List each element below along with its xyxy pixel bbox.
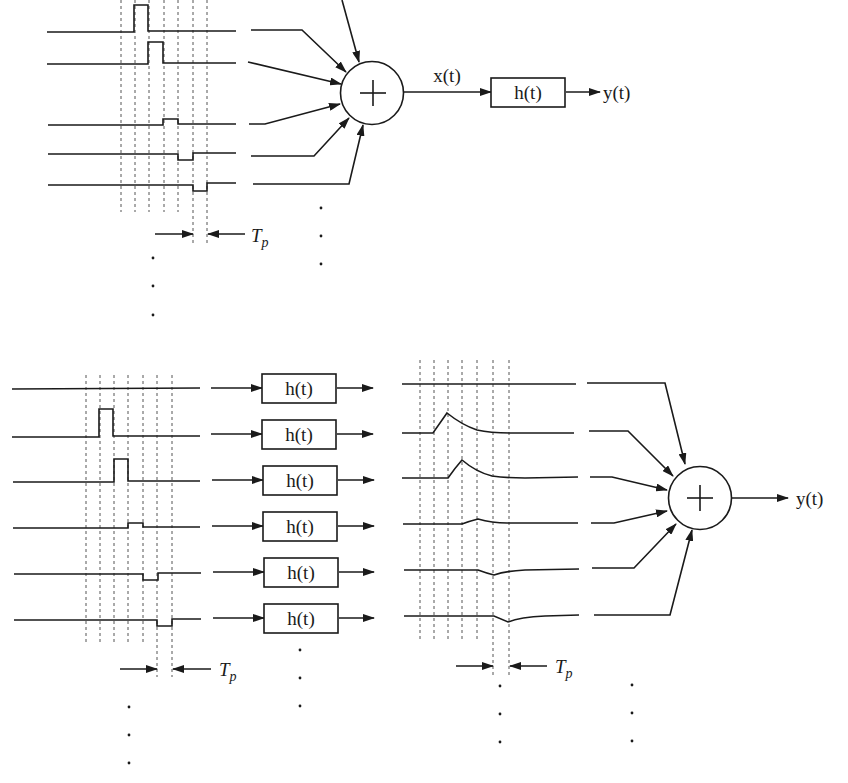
- filter-channel-3: h(t): [212, 466, 374, 495]
- top-filter-label: h(t): [514, 82, 541, 104]
- top-time-grid: [121, 0, 207, 246]
- bottom-filter-bank: h(t) h(t) h(t) h(t) h(t): [211, 374, 374, 633]
- bottom-input-signals: [12, 388, 201, 626]
- top-signal-label: x(t): [433, 65, 460, 87]
- bottom-right-tp-label: Tp: [555, 656, 573, 681]
- svg-text:h(t): h(t): [287, 562, 314, 584]
- bottom-filtered-signals: [402, 384, 579, 622]
- top-input-signals: [47, 5, 236, 191]
- top-signal-1: [47, 5, 236, 32]
- filtered-signal-4: [403, 519, 578, 524]
- filter-channel-4: h(t): [212, 512, 374, 541]
- top-signal-4: [48, 153, 236, 160]
- top-ellipsis-dots: [152, 207, 323, 317]
- diagram-canvas: x(t) h(t) y(t) Tp h(t): [0, 0, 848, 783]
- bottom-output-label: y(t): [796, 488, 823, 510]
- filter-channel-2: h(t): [211, 420, 373, 449]
- bottom-signal-5: [14, 573, 201, 580]
- filtered-signal-5: [404, 569, 579, 575]
- top-signal-5: [48, 183, 236, 191]
- top-tp-label: Tp: [251, 225, 269, 250]
- bottom-left-tp-label: Tp: [219, 659, 237, 684]
- svg-text:h(t): h(t): [285, 378, 312, 400]
- filtered-signal-3: [402, 460, 578, 478]
- bottom-summing-junction: [669, 467, 732, 530]
- bottom-right-time-grid: [420, 360, 509, 676]
- svg-text:h(t): h(t): [286, 470, 313, 492]
- svg-text:h(t): h(t): [287, 608, 314, 630]
- top-signal-2: [47, 42, 236, 64]
- top-signal-3: [48, 119, 236, 125]
- bottom-signal-6: [14, 619, 201, 626]
- filter-channel-1: h(t): [211, 374, 373, 403]
- svg-text:h(t): h(t): [285, 424, 312, 446]
- bottom-signal-1: [12, 388, 200, 389]
- top-output-label: y(t): [603, 82, 630, 104]
- filter-channel-6: h(t): [213, 604, 374, 633]
- filtered-signal-2: [402, 413, 574, 433]
- filter-channel-5: h(t): [213, 558, 374, 587]
- svg-text:h(t): h(t): [286, 516, 313, 538]
- top-summing-junction: [341, 62, 404, 125]
- filtered-signal-6: [404, 615, 579, 622]
